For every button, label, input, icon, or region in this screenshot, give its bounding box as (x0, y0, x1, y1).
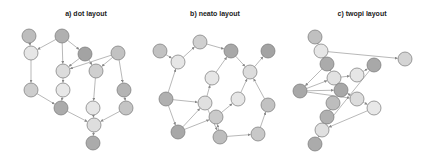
edge-arrow (236, 56, 245, 66)
edge-arrow (62, 43, 63, 64)
edge-arrow (307, 90, 334, 91)
edge-arrow (307, 81, 328, 89)
graph-node (193, 35, 207, 49)
edge-arrow (260, 112, 265, 127)
edge-arrow (218, 124, 219, 130)
graph-node (56, 64, 70, 78)
nodes-neato (153, 35, 275, 144)
edge-arrow (207, 85, 210, 96)
graph-node (119, 101, 133, 115)
graph-node (350, 68, 364, 82)
graph-node (24, 83, 38, 97)
graph-node (350, 92, 364, 106)
edge-arrow (101, 111, 120, 121)
graph-node (251, 127, 265, 141)
graph-node (89, 64, 103, 78)
graph-node (22, 29, 36, 43)
edge-arrow (168, 69, 176, 92)
graph-node (86, 101, 100, 115)
graph-node (315, 123, 329, 137)
panel-title-neato: b) neato layout (190, 10, 240, 18)
panel-title-twopi: c) twopi layout (338, 10, 388, 18)
graph-node (55, 29, 69, 43)
graph-node (224, 44, 238, 58)
edge-arrow (341, 76, 350, 77)
panel-twopi: c) twopi layout (293, 10, 412, 151)
edge-arrow (221, 104, 232, 113)
nodes-dot (22, 29, 133, 150)
edge-arrow (94, 78, 96, 101)
graph-node (367, 101, 381, 115)
graph-node (398, 52, 412, 66)
graph-node (320, 57, 334, 71)
graph-node (117, 83, 131, 97)
edge-arrow (102, 57, 113, 66)
graph-node (213, 130, 227, 144)
edge-arrow (328, 52, 398, 59)
panel-title-dot: a) dot layout (65, 10, 107, 18)
graph-node (198, 96, 212, 110)
edge-arrow (363, 102, 367, 104)
graph-node (86, 136, 100, 150)
graph-node (308, 30, 322, 44)
edge-arrow (241, 79, 247, 93)
edge-arrow (37, 94, 55, 105)
edge-arrow (254, 79, 265, 99)
graph-node (159, 92, 173, 106)
edge-arrow (168, 106, 175, 125)
edge-arrow (166, 55, 172, 58)
graph-node (171, 55, 185, 69)
graph-node (261, 98, 275, 112)
graph-node (171, 125, 185, 139)
edge-arrow (329, 111, 368, 127)
graph-node (261, 44, 275, 58)
edge-arrow (255, 57, 264, 67)
edge-arrow (69, 58, 80, 66)
layout-comparison-figure: a) dot layout b) neato layout c) twopi l… (0, 0, 436, 159)
panel-dot: a) dot layout (22, 10, 133, 150)
edge-arrow (67, 111, 87, 121)
edge-arrow (173, 100, 198, 103)
graph-node (87, 118, 101, 132)
graph-node (153, 44, 167, 58)
graph-node (367, 58, 381, 72)
graph-node (24, 46, 38, 60)
graph-node (111, 46, 125, 60)
edge-arrow (207, 44, 224, 49)
edge-arrow (68, 40, 80, 49)
graph-node (56, 83, 70, 97)
graph-node (54, 101, 68, 115)
graph-node (78, 47, 92, 61)
graph-node (209, 110, 223, 124)
graph-node (327, 71, 341, 85)
graph-node (293, 84, 307, 98)
edge-arrow (363, 69, 368, 72)
panel-neato: b) neato layout (153, 10, 275, 144)
graph-node (308, 137, 322, 151)
graph-node (326, 96, 340, 110)
graph-node (334, 83, 348, 97)
graph-node (243, 65, 257, 79)
graph-node (231, 92, 245, 106)
edge-arrow (183, 47, 194, 57)
edge-arrow (227, 135, 251, 137)
edge-arrow (38, 39, 56, 49)
edge-arrow (216, 57, 227, 72)
graph-node (314, 44, 328, 58)
graph-node (205, 71, 219, 85)
graph-node (320, 110, 334, 124)
edge-arrow (305, 69, 322, 86)
edge-arrow (119, 60, 123, 83)
